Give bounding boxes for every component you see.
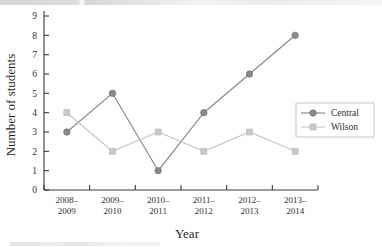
data-point-wilson-1 bbox=[110, 148, 116, 154]
x-tick-label-0: 2008–2009 bbox=[56, 195, 79, 216]
y-tick-label-8: 8 bbox=[32, 31, 37, 41]
x-tick-label-line1-3: 2011– bbox=[193, 195, 216, 205]
y-tick-label-6: 6 bbox=[32, 69, 37, 79]
y-tick-label-9: 9 bbox=[32, 11, 37, 21]
series-line-wilson bbox=[67, 113, 295, 152]
data-point-central-0 bbox=[64, 129, 70, 135]
x-tick-label-4: 2012–2013 bbox=[238, 195, 261, 216]
y-tick-label-7: 7 bbox=[32, 50, 37, 60]
data-point-central-2 bbox=[155, 167, 161, 173]
y-tick-label-3: 3 bbox=[32, 127, 37, 137]
series-wilson bbox=[64, 110, 298, 155]
x-axis-ticks bbox=[44, 185, 318, 190]
y-tick-label-4: 4 bbox=[32, 108, 37, 118]
chart-legend: CentralWilson bbox=[296, 103, 374, 137]
x-axis-title: Year bbox=[175, 226, 200, 241]
data-point-central-1 bbox=[109, 90, 115, 96]
y-axis-title: Number of students bbox=[3, 54, 18, 157]
legend-swatch-marker-wilson bbox=[310, 124, 316, 130]
data-point-wilson-0 bbox=[64, 110, 70, 116]
series-line-central bbox=[67, 35, 295, 170]
y-axis-tick-labels: 0123456789 bbox=[32, 11, 37, 195]
x-tick-label-line1-4: 2012– bbox=[238, 195, 261, 205]
legend-swatch-marker-central bbox=[310, 110, 316, 116]
chart-figure: 0123456789 2008–20092009–20102010–201120… bbox=[0, 0, 382, 247]
legend-label-central: Central bbox=[331, 108, 359, 118]
x-tick-label-5: 2013–2014 bbox=[284, 195, 307, 216]
data-point-wilson-2 bbox=[155, 129, 161, 135]
x-tick-label-line2-4: 2013 bbox=[241, 206, 260, 216]
data-point-wilson-5 bbox=[292, 148, 298, 154]
legend-label-wilson: Wilson bbox=[331, 122, 358, 132]
x-tick-label-line1-2: 2010– bbox=[147, 195, 170, 205]
x-tick-label-line1-1: 2009– bbox=[101, 195, 124, 205]
x-tick-label-1: 2009–2010 bbox=[101, 195, 124, 216]
data-point-wilson-3 bbox=[201, 148, 207, 154]
line-chart: 0123456789 2008–20092009–20102010–201120… bbox=[0, 0, 382, 247]
x-axis-tick-labels: 2008–20092009–20102010–20112011–20122012… bbox=[56, 195, 307, 216]
data-point-wilson-4 bbox=[247, 129, 253, 135]
x-tick-label-line2-5: 2014 bbox=[286, 206, 305, 216]
x-tick-label-line2-3: 2012 bbox=[195, 206, 213, 216]
x-tick-label-line2-0: 2009 bbox=[58, 206, 77, 216]
x-tick-label-line1-5: 2013– bbox=[284, 195, 307, 205]
series-layer bbox=[64, 32, 299, 174]
series-central bbox=[64, 32, 299, 174]
x-tick-label-line1-0: 2008– bbox=[56, 195, 79, 205]
data-point-central-5 bbox=[292, 32, 298, 38]
y-tick-label-1: 1 bbox=[32, 166, 37, 176]
data-point-central-3 bbox=[201, 109, 207, 115]
y-tick-label-2: 2 bbox=[32, 147, 37, 157]
x-tick-label-3: 2011–2012 bbox=[193, 195, 216, 216]
x-tick-label-2: 2010–2011 bbox=[147, 195, 170, 216]
x-tick-label-line2-2: 2011 bbox=[149, 206, 167, 216]
y-axis-ticks bbox=[44, 16, 49, 190]
x-tick-label-line2-1: 2010 bbox=[104, 206, 123, 216]
y-tick-label-5: 5 bbox=[32, 89, 37, 99]
data-point-central-4 bbox=[246, 71, 252, 77]
y-tick-label-0: 0 bbox=[32, 185, 37, 195]
